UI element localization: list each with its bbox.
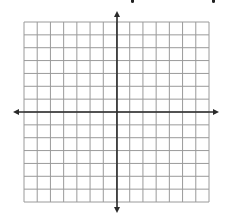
arrow-up-icon bbox=[114, 11, 120, 17]
coordinate-grid bbox=[0, 0, 228, 223]
arrow-down-icon bbox=[114, 207, 120, 213]
arrow-left-icon bbox=[13, 109, 19, 115]
arrow-right-icon bbox=[213, 109, 219, 115]
